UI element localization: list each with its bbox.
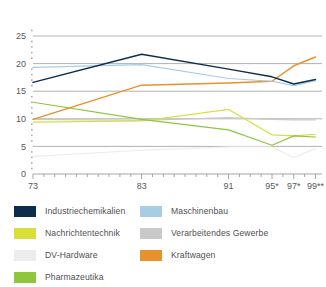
- series-line-maschinenbau: [33, 65, 315, 86]
- legend-item-dv-hardware[interactable]: DV-Hardware: [14, 244, 140, 266]
- legend-swatch-icon: [14, 272, 36, 283]
- legend-label: Kraftwagen: [171, 250, 215, 260]
- y-tick-label-15: 15: [16, 86, 26, 96]
- y-minor-tick: [31, 135, 32, 137]
- legend-label: Maschinenbau: [171, 206, 228, 216]
- series-line-pharmazeutika: [33, 102, 315, 145]
- y-minor-tick: [31, 107, 32, 109]
- legend-item-verarbeitendes-gewerbe[interactable]: Verarbeitendes Gewerbe: [140, 222, 314, 244]
- x-tick-label-83: 83: [137, 181, 147, 191]
- y-minor-tick: [31, 157, 32, 159]
- y-minor-tick: [31, 46, 32, 48]
- y-minor-tick: [31, 79, 32, 81]
- y-minor-tick: [31, 162, 32, 164]
- y-minor-tick: [31, 124, 32, 126]
- y-minor-tick: [31, 151, 32, 153]
- y-minor-tick: [31, 68, 32, 70]
- y-tick-label-0: 0: [21, 169, 26, 179]
- y-minor-tick: [31, 57, 32, 59]
- x-tick-label-73: 73: [28, 181, 38, 191]
- y-minor-tick: [31, 168, 32, 170]
- legend-swatch-icon: [140, 250, 162, 261]
- y-minor-tick: [31, 52, 32, 54]
- y-minor-tick: [31, 112, 32, 114]
- legend-swatch-icon: [14, 228, 36, 239]
- y-minor-tick: [31, 74, 32, 76]
- y-minor-tick: [31, 140, 32, 142]
- legend-swatch-icon: [14, 206, 36, 217]
- legend-item-kraftwagen[interactable]: Kraftwagen: [140, 244, 314, 266]
- legend-swatch-icon: [140, 206, 162, 217]
- legend-item-nachrichtentechnik[interactable]: Nachrichtentechnik: [14, 222, 140, 244]
- y-tick-label-20: 20: [16, 59, 26, 69]
- y-minor-tick: [31, 85, 32, 87]
- y-minor-tick: [31, 96, 32, 98]
- series-line-nachrichtentechnik: [33, 109, 315, 135]
- legend-label: Verarbeitendes Gewerbe: [171, 228, 268, 238]
- legend-item-pharmazeutika[interactable]: Pharmazeutika: [14, 266, 140, 287]
- legend-swatch-icon: [140, 228, 162, 239]
- chart-legend: IndustriechemikalienMaschinenbauNachrich…: [14, 200, 314, 287]
- x-tick-label-91: 91: [224, 181, 234, 191]
- legend-swatch-icon: [14, 250, 36, 261]
- line-chart: 051015202573839195*97*99**: [0, 0, 326, 196]
- x-tick-label-97*: 97*: [287, 181, 301, 191]
- series-line-industriechemikalien: [33, 54, 315, 84]
- y-tick-label-5: 5: [21, 142, 26, 152]
- chart-canvas: 051015202573839195*97*99**: [0, 0, 326, 196]
- y-minor-tick: [31, 30, 32, 32]
- legend-label: DV-Hardware: [45, 250, 98, 260]
- chart-page: 051015202573839195*97*99** Industriechem…: [0, 0, 326, 287]
- series-line-dv-hardware: [33, 147, 315, 157]
- x-tick-label-95*: 95*: [265, 181, 279, 191]
- y-tick-label-10: 10: [16, 114, 26, 124]
- y-minor-tick: [31, 129, 32, 131]
- y-minor-tick: [31, 101, 32, 103]
- legend-item-maschinenbau[interactable]: Maschinenbau: [140, 200, 314, 222]
- legend-label: Industriechemikalien: [45, 206, 125, 216]
- legend-item-industriechemikalien[interactable]: Industriechemikalien: [14, 200, 140, 222]
- y-tick-label-25: 25: [16, 31, 26, 41]
- y-minor-tick: [31, 41, 32, 43]
- legend-label: Pharmazeutika: [45, 272, 104, 282]
- legend-label: Nachrichtentechnik: [45, 228, 120, 238]
- x-tick-label-99**: 99**: [307, 181, 325, 191]
